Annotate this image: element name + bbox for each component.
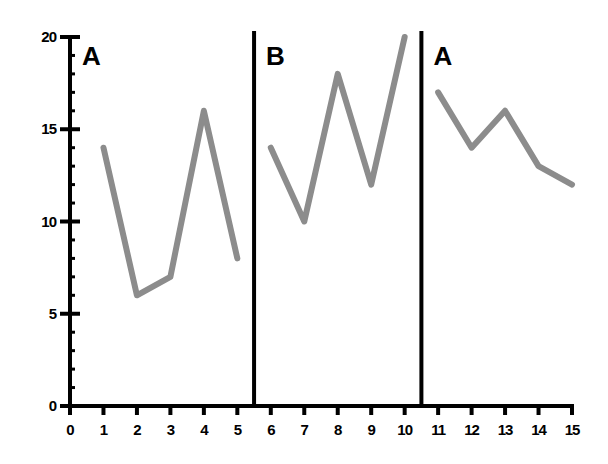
x-tick-label: 5 [234, 421, 242, 438]
phase-label-1: A [82, 41, 101, 71]
series-line-2 [271, 37, 405, 222]
x-tick-label: 6 [267, 421, 275, 438]
x-tick-label: 3 [167, 421, 175, 438]
phase-label-3: A [433, 41, 452, 71]
y-tick-label: 0 [49, 397, 57, 414]
phase-label-2: B [266, 41, 285, 71]
x-tick-label: 15 [565, 421, 580, 438]
x-tick-label: 0 [66, 421, 74, 438]
x-tick-label: 13 [498, 421, 513, 438]
x-tick-label: 7 [301, 421, 309, 438]
data-series [103, 37, 572, 295]
x-tick-label: 11 [431, 421, 446, 438]
x-tick-label: 14 [531, 421, 547, 438]
series-line-3 [438, 92, 572, 184]
x-tick-label: 1 [100, 421, 108, 438]
abab-line-chart: 05101520 0123456789101112131415 ABA [0, 0, 608, 464]
x-axis: 0123456789101112131415 [66, 406, 580, 438]
y-tick-label: 5 [49, 305, 57, 322]
y-tick-label: 15 [41, 120, 56, 137]
y-tick-label: 10 [41, 213, 56, 230]
x-tick-label: 2 [133, 421, 141, 438]
x-tick-label: 9 [368, 421, 376, 438]
x-tick-label: 10 [397, 421, 412, 438]
x-tick-label: 12 [464, 421, 479, 438]
y-tick-label: 20 [41, 28, 56, 45]
x-tick-label: 8 [334, 421, 342, 438]
series-line-1 [103, 111, 237, 295]
x-tick-label: 4 [200, 421, 209, 438]
y-axis: 05101520 [41, 28, 80, 414]
